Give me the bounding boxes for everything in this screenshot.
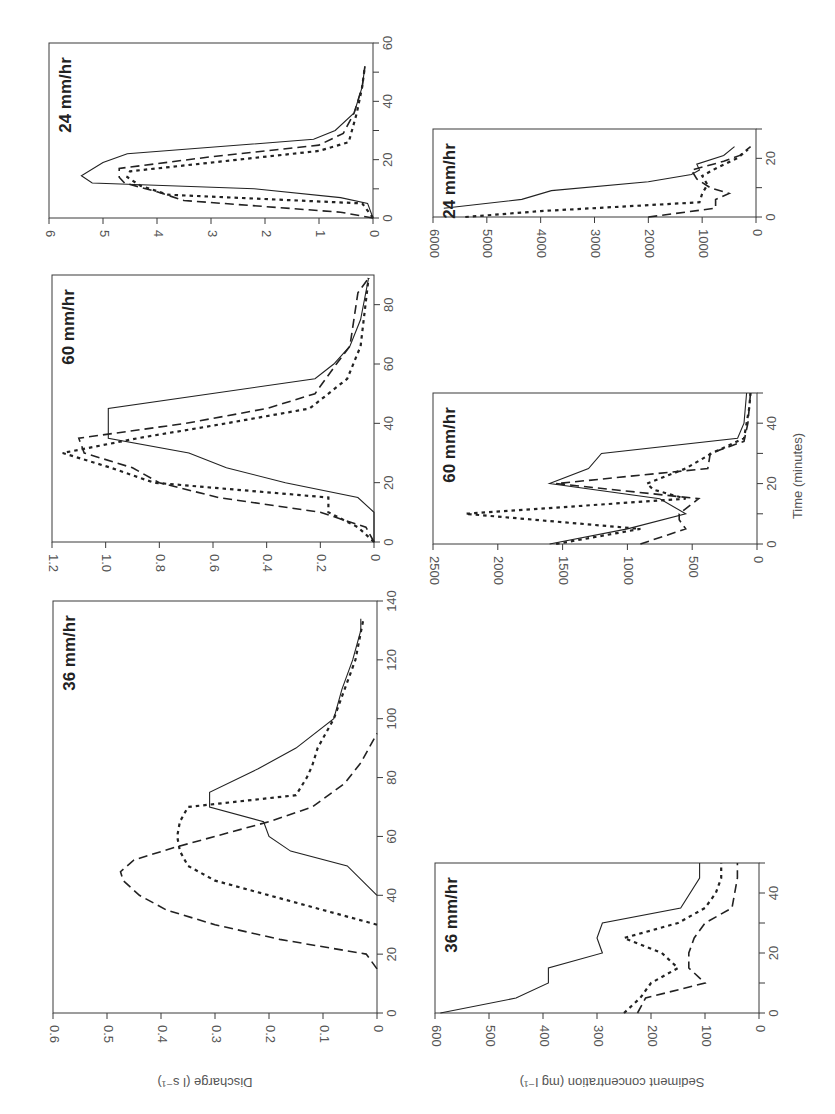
series-line-solid bbox=[108, 278, 374, 542]
time-tick-label: 0 bbox=[763, 213, 778, 220]
time-tick-label: 20 bbox=[764, 476, 779, 490]
value-tick-label: 0.3 bbox=[209, 1025, 224, 1043]
value-tick-label: 0 bbox=[750, 229, 765, 236]
value-tick-label: 4 bbox=[151, 230, 166, 237]
time-tick-label: 20 bbox=[381, 475, 396, 489]
series-line-dotted bbox=[127, 66, 373, 218]
chart-panel: 0123456020406024 mm/hr bbox=[43, 36, 396, 237]
series-line-dashed bbox=[121, 733, 378, 969]
value-tick-label: 6000 bbox=[427, 229, 442, 258]
value-tick-label: 0.2 bbox=[314, 554, 329, 572]
panel-title: 60 mm/hr bbox=[59, 289, 78, 365]
value-tick-label: 0.5 bbox=[101, 1025, 116, 1043]
panel-title: 24 mm/hr bbox=[440, 143, 459, 219]
series-line-dashed bbox=[556, 393, 750, 544]
time-tick-label: 40 bbox=[764, 416, 779, 430]
value-tick-label: 0 bbox=[368, 554, 383, 561]
time-tick-label: 0 bbox=[764, 540, 779, 547]
chart-panel: 050010001500200025000204060 mm/hr bbox=[427, 393, 780, 585]
value-tick-label: 2 bbox=[259, 230, 274, 237]
value-tick-label: 500 bbox=[483, 1025, 498, 1047]
value-tick-label: 5000 bbox=[480, 229, 495, 258]
chart-panel: 00.10.20.30.40.50.602040608010012014036 … bbox=[47, 590, 400, 1043]
time-tick-label: 20 bbox=[380, 152, 395, 166]
value-tick-label: 0 bbox=[367, 230, 382, 237]
series-line-solid bbox=[550, 393, 747, 544]
value-tick-label: 1.0 bbox=[99, 554, 114, 572]
time-tick-label: 0 bbox=[381, 538, 396, 545]
value-tick-label: 400 bbox=[537, 1025, 552, 1047]
value-tick-label: 1000 bbox=[696, 229, 711, 258]
time-tick-label: 40 bbox=[381, 416, 396, 430]
time-tick-label: 40 bbox=[380, 94, 395, 108]
figure-canvas: 0123456020406024 mm/hr00.20.40.60.81.01.… bbox=[0, 0, 835, 1114]
time-tick-label: 20 bbox=[763, 151, 778, 165]
series-line-dashed bbox=[638, 863, 738, 1013]
value-tick-label: 1000 bbox=[621, 556, 636, 585]
plot-frame bbox=[52, 275, 374, 542]
chart-panels: 0123456020406024 mm/hr00.20.40.60.81.01.… bbox=[43, 36, 782, 1047]
value-tick-label: 2000 bbox=[642, 229, 657, 258]
chart-panel: 01002003004005006000204036 mm/hr bbox=[429, 863, 782, 1047]
time-tick-label: 60 bbox=[380, 36, 395, 50]
time-axis-label: Time (minutes) bbox=[790, 433, 805, 519]
value-tick-label: 3 bbox=[205, 230, 220, 237]
panel-title: 36 mm/hr bbox=[60, 615, 79, 691]
value-tick-label: 500 bbox=[686, 556, 701, 578]
value-tick-label: 300 bbox=[591, 1025, 606, 1047]
value-tick-label: 1500 bbox=[556, 556, 571, 585]
value-tick-label: 600 bbox=[429, 1025, 444, 1047]
value-tick-label: 0.4 bbox=[260, 554, 275, 572]
value-tick-label: 100 bbox=[699, 1025, 714, 1047]
value-tick-label: 4000 bbox=[534, 229, 549, 258]
panel-title: 36 mm/hr bbox=[442, 877, 461, 953]
time-tick-label: 80 bbox=[384, 770, 399, 784]
sediment-axis-label: Sediment concentration (mg l⁻¹) bbox=[520, 1075, 705, 1090]
time-tick-label: 140 bbox=[384, 590, 399, 612]
time-tick-label: 40 bbox=[384, 888, 399, 902]
value-tick-label: 0.2 bbox=[263, 1025, 278, 1043]
plot-frame bbox=[53, 601, 377, 1013]
value-tick-label: 0.1 bbox=[317, 1025, 332, 1043]
value-tick-label: 200 bbox=[645, 1025, 660, 1047]
series-line-dashed bbox=[79, 278, 374, 542]
time-tick-label: 0 bbox=[384, 1009, 399, 1016]
series-line-solid bbox=[210, 619, 377, 896]
time-tick-label: 120 bbox=[384, 649, 399, 671]
time-tick-label: 0 bbox=[380, 214, 395, 221]
series-line-dashed bbox=[119, 66, 373, 218]
time-tick-label: 80 bbox=[381, 297, 396, 311]
time-tick-label: 60 bbox=[381, 357, 396, 371]
series-line-dotted bbox=[465, 150, 748, 218]
plot-frame bbox=[49, 43, 373, 218]
value-tick-label: 0.8 bbox=[153, 554, 168, 572]
series-line-dashed bbox=[648, 147, 750, 217]
value-tick-label: 2000 bbox=[491, 556, 506, 585]
time-tick-label: 0 bbox=[766, 1009, 781, 1016]
panel-title: 24 mm/hr bbox=[56, 57, 75, 133]
time-tick-label: 100 bbox=[384, 708, 399, 730]
time-tick-label: 20 bbox=[384, 947, 399, 961]
series-line-solid bbox=[440, 863, 699, 1013]
series-line-dotted bbox=[63, 278, 374, 542]
series-line-solid bbox=[81, 66, 373, 218]
value-tick-label: 5 bbox=[97, 230, 112, 237]
value-tick-label: 0.6 bbox=[47, 1025, 62, 1043]
value-tick-label: 0.6 bbox=[207, 554, 222, 572]
value-tick-label: 0.4 bbox=[155, 1025, 170, 1043]
value-tick-label: 0 bbox=[371, 1025, 386, 1032]
value-tick-label: 1 bbox=[313, 230, 328, 237]
value-tick-label: 6 bbox=[43, 230, 58, 237]
value-tick-label: 3000 bbox=[588, 229, 603, 258]
time-tick-label: 60 bbox=[384, 829, 399, 843]
discharge-axis-label: Discharge (l s⁻¹) bbox=[157, 1075, 252, 1090]
value-tick-label: 2500 bbox=[427, 556, 442, 585]
time-tick-label: 20 bbox=[766, 946, 781, 960]
chart-panel: 010002000300040005000600002024 mm/hr bbox=[427, 129, 779, 258]
value-tick-label: 1.2 bbox=[46, 554, 61, 572]
value-tick-label: 0 bbox=[751, 556, 766, 563]
value-tick-label: 0 bbox=[753, 1025, 768, 1032]
series-line-solid bbox=[444, 147, 735, 209]
panel-title: 60 mm/hr bbox=[440, 407, 459, 483]
series-line-dotted bbox=[177, 619, 377, 925]
